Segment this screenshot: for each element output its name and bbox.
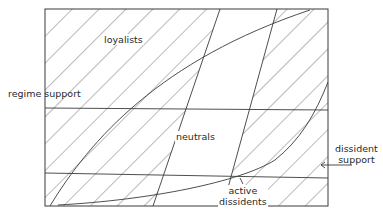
label-active-dissidents: active dissidents [218, 185, 268, 207]
label-regime: regime support [8, 88, 81, 99]
label-regime-support-left: regime support [8, 88, 81, 99]
label-active-line1: active [219, 185, 267, 196]
label-dissident-line1: dissident [335, 143, 378, 154]
label-neutrals: neutrals [175, 131, 216, 142]
label-dissident-line2: support [335, 154, 378, 165]
label-active-line2: dissidents [219, 196, 267, 207]
label-dissident-support: dissident support [335, 143, 378, 165]
label-loyalists: loyalists [103, 34, 144, 45]
support-diagram [0, 0, 383, 220]
